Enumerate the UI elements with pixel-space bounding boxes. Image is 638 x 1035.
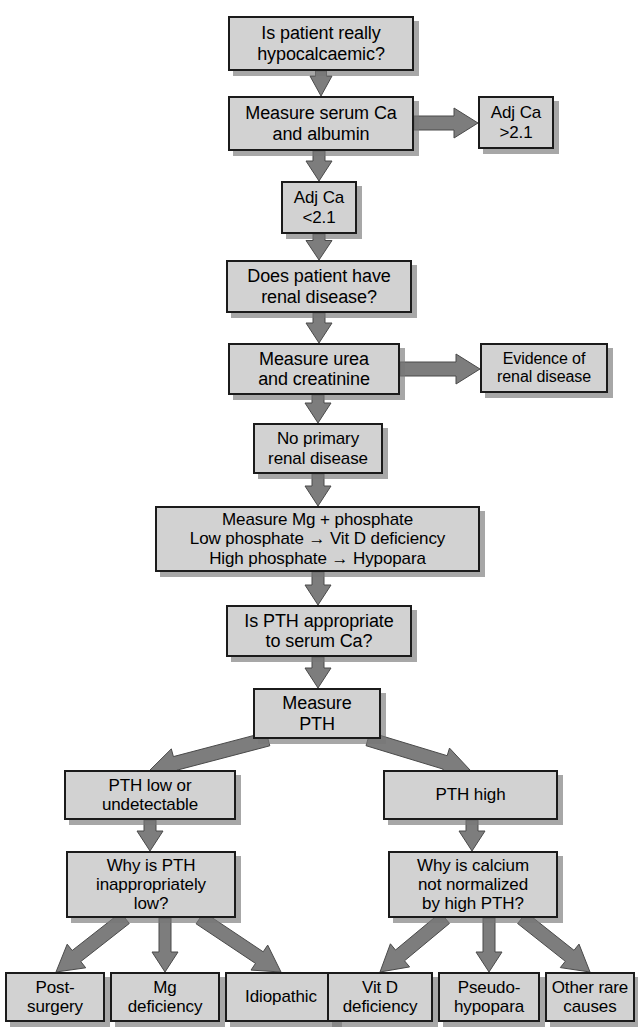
flowchart-node-adj-ca-high: Adj Ca >2.1 xyxy=(478,96,554,149)
flowchart-arrow-why-is-pth-inappropriately-low-to-idiopathic xyxy=(196,912,281,972)
flowchart-node-adj-ca-low: Adj Ca <2.1 xyxy=(281,181,357,234)
flowchart-arrow-adj-ca-low-to-does-patient-have-renal-disease xyxy=(306,234,332,260)
flowchart-node-label: Is PTH appropriate to serum Ca? xyxy=(228,611,410,651)
flowchart-node-mg-deficiency: Mg deficiency xyxy=(110,972,220,1022)
flowchart-arrow-pth-high-to-why-is-calcium-not-normalized xyxy=(459,820,485,851)
flowchart-node-label: Evidence of renal disease xyxy=(482,350,606,386)
flowchart-node-label: Measure Mg + phosphate Low phosphate → V… xyxy=(157,510,478,567)
flowchart-arrow-is-patient-hypocalcaemic-to-measure-serum-ca-albumin xyxy=(310,71,332,96)
flowchart-node-label: Other rare causes xyxy=(547,978,633,1016)
flowchart-node-label: Idiopathic xyxy=(227,987,335,1006)
flowchart-node-label: Pseudo- hypopara xyxy=(440,978,538,1016)
flowchart-node-label: No primary renal disease xyxy=(255,429,381,467)
flowchart-node-label: Adj Ca >2.1 xyxy=(480,103,552,141)
flowchart-arrow-why-is-pth-inappropriately-low-to-post-surgery xyxy=(56,913,129,973)
flowchart-node-label: Adj Ca <2.1 xyxy=(283,188,355,226)
flowchart-node-label: Mg deficiency xyxy=(112,978,218,1016)
flowchart-node-does-patient-have-renal-disease: Does patient have renal disease? xyxy=(226,260,412,313)
flowchart-node-vit-d-deficiency: Vit D deficiency xyxy=(327,972,433,1022)
flowchart-node-pth-low-or-undetectable: PTH low or undetectable xyxy=(64,770,236,820)
flowchart-node-measure-serum-ca-albumin: Measure serum Ca and albumin xyxy=(228,96,414,151)
flowchart-node-label: Does patient have renal disease? xyxy=(228,266,410,306)
flowchart-node-why-is-calcium-not-normalized: Why is calcium not normalized by high PT… xyxy=(388,851,558,918)
flowchart-node-label: Why is PTH inappropriately low? xyxy=(68,856,234,913)
flowchart-node-measure-pth: Measure PTH xyxy=(253,688,381,739)
flowchart-arrow-why-is-calcium-not-normalized-to-other-rare-causes xyxy=(518,913,590,973)
flowchart-node-post-surgery: Post- surgery xyxy=(5,972,105,1022)
flowchart-arrow-measure-urea-creatinine-to-evidence-of-renal-disease xyxy=(400,354,480,384)
flowchart-arrow-measure-serum-ca-albumin-to-adj-ca-low xyxy=(306,151,332,181)
flowchart-arrow-measure-serum-ca-albumin-to-adj-ca-high xyxy=(414,108,478,138)
flowchart-arrow-pth-low-or-undetectable-to-why-is-pth-inappropriately-low xyxy=(137,820,163,851)
flowchart-node-is-patient-hypocalcaemic: Is patient really hypocalcaemic? xyxy=(228,16,414,71)
flowchart-node-label: Is patient really hypocalcaemic? xyxy=(230,23,412,63)
flowchart-node-other-rare-causes: Other rare causes xyxy=(545,972,635,1022)
flowchart-node-measure-urea-creatinine: Measure urea and creatinine xyxy=(228,343,400,395)
flowchart-node-evidence-of-renal-disease: Evidence of renal disease xyxy=(480,343,608,393)
flowchart-arrow-does-patient-have-renal-disease-to-measure-urea-creatinine xyxy=(306,313,332,343)
flowchart-node-pseudo-hypopara: Pseudo- hypopara xyxy=(438,972,540,1022)
flowchart-arrow-is-pth-appropriate-to-measure-pth xyxy=(305,657,331,688)
flowchart-node-label: Measure urea and creatinine xyxy=(230,349,398,389)
flowchart-node-label: Measure serum Ca and albumin xyxy=(230,103,412,143)
flowchart-arrow-measure-urea-creatinine-to-no-primary-renal-disease xyxy=(305,395,331,423)
flowchart-node-measure-mg-phosphate: Measure Mg + phosphate Low phosphate → V… xyxy=(155,506,480,572)
flowchart-node-why-is-pth-inappropriately-low: Why is PTH inappropriately low? xyxy=(66,851,236,918)
flowchart-node-label: PTH high xyxy=(385,785,556,804)
flowchart-node-label: PTH low or undetectable xyxy=(66,776,234,814)
flowchart-arrow-why-is-pth-inappropriately-low-to-mg-deficiency xyxy=(152,918,178,972)
flowchart-node-label: Why is calcium not normalized by high PT… xyxy=(390,856,556,913)
flowchart-node-label: Measure PTH xyxy=(255,693,379,733)
flowchart-node-idiopathic: Idiopathic xyxy=(225,972,337,1022)
flowchart-node-pth-high: PTH high xyxy=(383,770,558,820)
flowchart-arrow-why-is-calcium-not-normalized-to-pseudo-hypopara xyxy=(476,918,502,972)
flowchart-arrow-measure-mg-phosphate-to-is-pth-appropriate xyxy=(305,572,331,605)
flowchart-node-label: Post- surgery xyxy=(7,978,103,1016)
flowchart-arrow-no-primary-renal-disease-to-measure-mg-phosphate xyxy=(305,474,331,506)
flowchart-node-no-primary-renal-disease: No primary renal disease xyxy=(253,423,383,474)
flowchart-node-is-pth-appropriate: Is PTH appropriate to serum Ca? xyxy=(226,605,412,657)
flowchart-canvas: Is patient really hypocalcaemic?Measure … xyxy=(0,0,638,1035)
flowchart-node-label: Vit D deficiency xyxy=(329,978,431,1016)
flowchart-arrow-why-is-calcium-not-normalized-to-vit-d-deficiency xyxy=(380,913,450,972)
